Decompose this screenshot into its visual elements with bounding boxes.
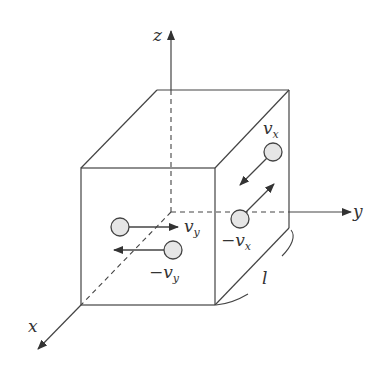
label-prefix: − — [221, 230, 235, 250]
label-sub: x — [273, 128, 279, 141]
x-axis — [38, 305, 81, 349]
x-axis-label: x — [28, 318, 38, 335]
z-axis-label: z — [153, 27, 162, 44]
molecule-neg-vx — [231, 210, 249, 228]
cube-diagram — [0, 0, 390, 369]
label-prefix: − — [149, 262, 163, 282]
label-vx: vx — [263, 120, 279, 137]
label-vy: vy — [184, 218, 200, 235]
label-sub: y — [173, 272, 179, 285]
label-main: v — [263, 118, 273, 138]
label-sub: y — [194, 226, 200, 239]
label-sub: x — [245, 240, 251, 253]
label-neg-vx: −vx — [221, 232, 251, 249]
cube-edge — [81, 90, 157, 168]
molecule-vy — [111, 218, 129, 236]
molecule-vx — [264, 143, 282, 161]
y-axis-label: y — [353, 203, 363, 220]
label-main: v — [235, 230, 245, 250]
velocity-arrow-neg-vx — [246, 184, 274, 212]
label-neg-vy: −vy — [149, 264, 179, 281]
molecule-neg-vy — [164, 241, 182, 259]
label-main: v — [163, 262, 173, 282]
edge-length-label: l — [262, 270, 267, 287]
label-main: v — [184, 216, 194, 236]
velocity-arrow-vx — [240, 158, 267, 185]
